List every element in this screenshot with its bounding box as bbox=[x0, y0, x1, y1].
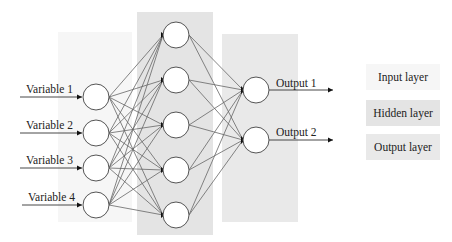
hidden-node-2 bbox=[163, 67, 189, 93]
output-node-2 bbox=[243, 127, 269, 153]
hidden-node-1 bbox=[163, 22, 189, 48]
hidden-node-3 bbox=[163, 112, 189, 138]
input-label-4: Variable 4 bbox=[28, 191, 75, 203]
input-node-1 bbox=[83, 84, 109, 110]
legend-input-layer: Input layer bbox=[366, 64, 440, 90]
input-label-1: Variable 1 bbox=[26, 83, 73, 95]
input-label-2: Variable 2 bbox=[26, 119, 73, 131]
input-node-4 bbox=[83, 192, 109, 218]
hidden-node-4 bbox=[163, 157, 189, 183]
input-node-2 bbox=[83, 120, 109, 146]
legend-hidden-layer: Hidden layer bbox=[366, 100, 440, 126]
legend-output-layer: Output layer bbox=[366, 134, 440, 160]
input-node-3 bbox=[83, 155, 109, 181]
output-label-2: Output 2 bbox=[276, 126, 317, 139]
output-node-1 bbox=[243, 77, 269, 103]
input-label-3: Variable 3 bbox=[26, 154, 73, 166]
hidden-node-5 bbox=[163, 202, 189, 228]
output-label-1: Output 1 bbox=[276, 77, 317, 90]
